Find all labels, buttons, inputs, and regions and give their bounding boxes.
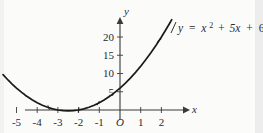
x-tick-label--5: -5 [12,116,22,128]
equation-term3: 6 [259,22,263,34]
equation-label: y = x 2 + 5x + 6 [177,18,263,35]
equation-term1-exponent: 2 [209,21,213,30]
equation-term1-base: x [200,22,207,34]
y-axis-label: y [123,5,129,17]
equation-term2: 5x [230,22,242,34]
x-axis-label: x [191,103,197,115]
equation-plus-1: + [218,22,225,34]
equation-lhs: y [177,22,184,35]
x-tick-label--2: -2 [74,116,83,128]
curve-tick-marks [23,39,161,112]
origin-label: O [116,116,124,128]
x-tick-label--4: -4 [33,116,43,128]
equation-plus-2: + [246,22,253,34]
x-tick-label-2: 2 [159,116,165,128]
y-tick-label-20: 20 [103,31,115,43]
x-axis-arrow-icon [183,107,190,114]
y-tick-label-15: 15 [103,49,115,61]
x-axis-tick-labels: -5 -4 -3 -2 -1 O 1 2 [12,116,164,128]
y-axis-tick-labels: 5 10 15 20 [103,31,115,98]
equation-leader-line [171,22,176,33]
x-tick-label--1: -1 [95,116,104,128]
y-axis-arrow-icon [117,17,124,24]
parabola-curve [3,20,172,111]
parabola-graph-figure: -5 -4 -3 -2 -1 O 1 2 5 10 15 20 x y y = … [0,0,263,133]
x-tick-label-1: 1 [138,116,144,128]
equation-equals: = [189,22,196,34]
x-tick-label--3: -3 [53,116,63,128]
y-tick-label-10: 10 [103,67,115,79]
